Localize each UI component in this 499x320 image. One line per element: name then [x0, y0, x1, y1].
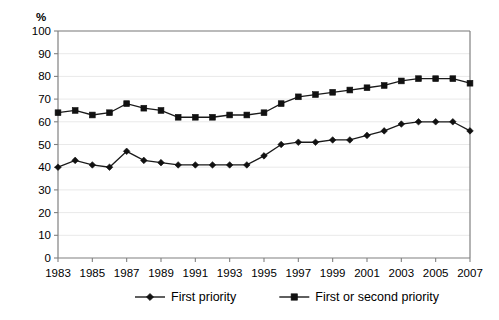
data-point-square	[347, 87, 353, 93]
data-point-square	[467, 80, 473, 86]
x-axis-tick-label: 1991	[183, 267, 209, 279]
y-axis-tick-label: 0	[45, 252, 51, 264]
y-axis-tick-label: 20	[38, 207, 51, 219]
data-point-square	[398, 78, 404, 84]
x-axis-tick-label: 1999	[320, 267, 346, 279]
data-point-diamond	[278, 141, 285, 148]
y-axis-tick-label: 70	[38, 93, 51, 105]
data-point-diamond	[72, 157, 79, 164]
data-point-square	[107, 110, 113, 116]
legend-square-icon	[291, 294, 297, 300]
y-axis-tick-label: 60	[38, 116, 51, 128]
y-axis-tick-label: 40	[38, 161, 51, 173]
data-point-diamond	[432, 119, 439, 126]
x-axis-tick-label: 1993	[217, 267, 243, 279]
data-point-diamond	[467, 128, 474, 135]
data-point-square	[261, 110, 267, 116]
data-point-diamond	[347, 137, 354, 144]
chart-container: 0102030405060708090100%19831985198719891…	[0, 0, 499, 320]
x-axis-tick-label: 2003	[389, 267, 415, 279]
data-point-diamond	[141, 157, 148, 164]
x-axis-tick-label: 1989	[148, 267, 174, 279]
data-point-square	[381, 83, 387, 89]
x-axis-tick-label: 1987	[114, 267, 140, 279]
data-point-square	[295, 94, 301, 100]
y-axis-unit-label: %	[36, 11, 46, 23]
y-axis-tick-label: 90	[38, 48, 51, 60]
y-axis-tick-label: 10	[38, 229, 51, 241]
data-point-square	[141, 105, 147, 111]
x-axis-tick-label: 1995	[251, 267, 277, 279]
data-point-square	[278, 101, 284, 107]
x-axis-tick-label: 2005	[423, 267, 449, 279]
legend-diamond-icon	[146, 293, 153, 300]
data-point-square	[330, 89, 336, 95]
y-axis-tick-label: 50	[38, 139, 51, 151]
data-point-diamond	[415, 119, 422, 126]
x-axis-tick-label: 2001	[354, 267, 380, 279]
data-point-square	[210, 114, 216, 120]
figure-caption-partial	[6, 311, 306, 320]
data-point-square	[244, 112, 250, 118]
data-point-square	[72, 108, 78, 114]
data-point-square	[89, 112, 95, 118]
data-point-diamond	[261, 153, 268, 160]
data-point-square	[192, 114, 198, 120]
x-axis-tick-label: 1985	[80, 267, 106, 279]
data-point-square	[364, 85, 370, 91]
data-point-square	[124, 101, 130, 107]
data-point-diamond	[381, 128, 388, 135]
y-axis-tick-label: 100	[32, 25, 51, 37]
x-axis-tick-label: 1983	[45, 267, 71, 279]
data-point-square	[313, 92, 319, 98]
x-axis-tick-label: 2007	[457, 267, 483, 279]
legend-label-1: First priority	[171, 290, 237, 304]
data-point-diamond	[158, 159, 165, 166]
line-chart: 0102030405060708090100%19831985198719891…	[0, 0, 499, 320]
data-point-square	[433, 76, 439, 82]
data-point-diamond	[55, 164, 62, 171]
data-point-square	[55, 110, 61, 116]
data-point-diamond	[364, 132, 371, 139]
data-point-diamond	[329, 137, 336, 144]
data-point-square	[450, 76, 456, 82]
data-point-square	[416, 76, 422, 82]
y-axis-tick-label: 80	[38, 70, 51, 82]
x-axis-tick-label: 1997	[286, 267, 312, 279]
legend-label-2: First or second priority	[315, 290, 439, 304]
data-point-square	[227, 112, 233, 118]
data-point-square	[175, 114, 181, 120]
y-axis-tick-label: 30	[38, 184, 51, 196]
data-point-square	[158, 108, 164, 114]
data-point-diamond	[450, 119, 457, 126]
